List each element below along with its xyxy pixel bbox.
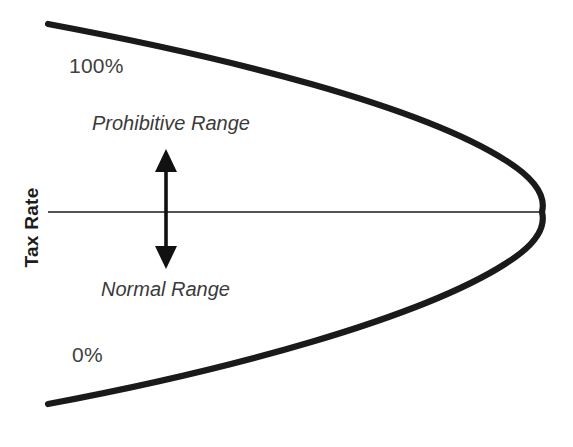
y-axis-title: Tax Rate (22, 187, 41, 267)
axis-tick-label-100-percent: 100% (69, 55, 124, 76)
laffer-curve-path (48, 24, 543, 404)
axis-tick-label-0-percent: 0% (72, 344, 103, 365)
double-headed-vertical-arrow (155, 149, 177, 269)
arrow-head-down (155, 246, 177, 269)
arrow-head-up (155, 149, 177, 172)
laffer-curve-diagram: 100% 0% Prohibitive Range Normal Range T… (0, 0, 573, 447)
prohibitive-range-label: Prohibitive Range (92, 113, 250, 133)
normal-range-label: Normal Range (101, 279, 230, 299)
